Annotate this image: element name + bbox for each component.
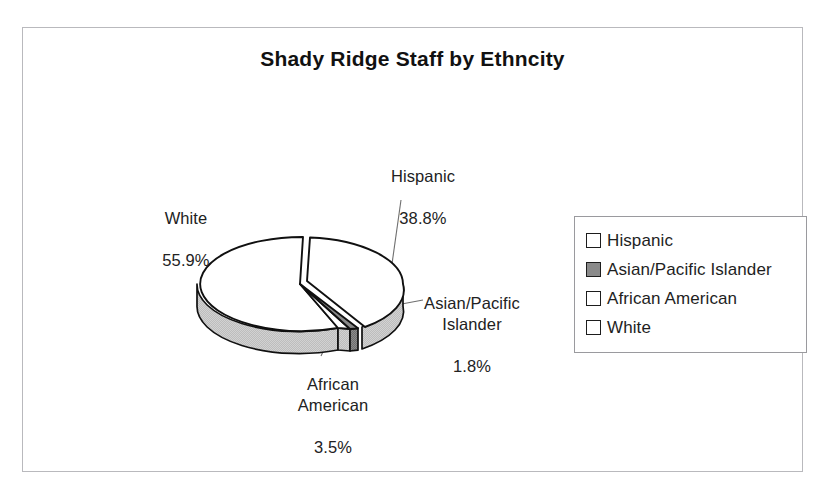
- data-label-african-name: African American: [263, 374, 403, 416]
- legend-item-asian-pacific-islander[interactable]: Asian/Pacific Islander: [586, 255, 798, 284]
- data-label-white-value: 55.9%: [126, 250, 246, 271]
- data-label-african-value: 3.5%: [263, 437, 403, 458]
- pie-chart-plot-area: White 55.9% Hispanic 38.8% Asian/Pacific…: [23, 28, 804, 473]
- data-label-asian: Asian/Pacific Islander 1.8%: [397, 272, 547, 398]
- legend-label-asian-pacific-islander: Asian/Pacific Islander: [607, 260, 772, 280]
- data-label-white-name: White: [126, 208, 246, 229]
- chart-frame: Shady Ridge Staff by Ethncity: [22, 27, 803, 472]
- legend-swatch-white: [586, 320, 601, 335]
- pie-side-african: [338, 328, 350, 351]
- legend-swatch-african-american: [586, 291, 601, 306]
- data-label-hispanic: Hispanic 38.8%: [353, 145, 493, 250]
- chart-legend: Hispanic Asian/Pacific Islander African …: [574, 216, 807, 353]
- legend-item-white[interactable]: White: [586, 313, 798, 342]
- data-label-asian-name: Asian/Pacific Islander: [397, 293, 547, 335]
- legend-item-hispanic[interactable]: Hispanic: [586, 226, 798, 255]
- data-label-african: African American 3.5%: [263, 353, 403, 479]
- legend-label-hispanic: Hispanic: [607, 231, 673, 251]
- pie-side-asian: [350, 328, 358, 351]
- legend-label-white: White: [607, 318, 651, 338]
- legend-swatch-hispanic: [586, 233, 601, 248]
- data-label-hispanic-name: Hispanic: [353, 166, 493, 187]
- legend-swatch-asian-pacific-islander: [586, 262, 601, 277]
- legend-item-african-american[interactable]: African American: [586, 284, 798, 313]
- legend-label-african-american: African American: [607, 289, 737, 309]
- data-label-asian-value: 1.8%: [397, 356, 547, 377]
- data-label-hispanic-value: 38.8%: [353, 208, 493, 229]
- data-label-white: White 55.9%: [126, 187, 246, 292]
